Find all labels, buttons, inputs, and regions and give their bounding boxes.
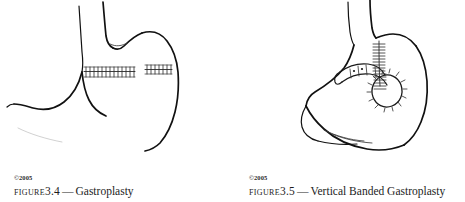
antrum-lower-border bbox=[306, 106, 404, 150]
duodenum bbox=[7, 104, 14, 107]
staple-line-lateral bbox=[145, 65, 172, 74]
duodenum-fold-1 bbox=[324, 130, 364, 141]
copyright-notice: ©2005 bbox=[232, 175, 465, 182]
illustration-gastroplasty bbox=[0, 0, 232, 152]
copyright-notice: ©2005 bbox=[0, 175, 232, 182]
esophagus-left-wall bbox=[348, 2, 354, 45]
figure-label: Figure bbox=[14, 185, 45, 197]
stoma-opening bbox=[367, 69, 407, 112]
staple-line-medial bbox=[84, 67, 135, 77]
esophagus-left-wall bbox=[79, 6, 83, 72]
caption-dash: — bbox=[60, 185, 76, 197]
duodenum-lower bbox=[318, 141, 357, 144]
lower-contour-hint bbox=[18, 128, 62, 142]
figure-label: Figure bbox=[249, 185, 280, 197]
caption-dash: — bbox=[295, 185, 311, 197]
cardiac-notch bbox=[113, 33, 142, 49]
figure-title: Vertical Banded Gastroplasty bbox=[310, 185, 445, 197]
caption-block-3-5: ©2005 Figure3.5—Vertical Banded Gastropl… bbox=[232, 175, 465, 198]
figure-number: 3.4 bbox=[45, 185, 60, 197]
figure-caption: Figure3.4—Gastroplasty bbox=[0, 185, 232, 198]
illustration-vertical-banded-gastroplasty bbox=[232, 0, 465, 152]
lesser-curvature bbox=[306, 45, 354, 106]
figure-panel-3-4: ©2005 Figure3.4—Gastroplasty bbox=[0, 0, 232, 202]
greater-curvature bbox=[404, 46, 427, 145]
antrum-lower-border bbox=[14, 72, 82, 109]
esophagus-right-wall bbox=[103, 2, 113, 48]
lesser-curvature bbox=[82, 72, 106, 116]
figure-title: Gastroplasty bbox=[75, 185, 133, 197]
greater-curvature bbox=[142, 32, 178, 151]
caption-block-3-4: ©2005 Figure3.4—Gastroplasty bbox=[0, 175, 232, 198]
figure-caption: Figure3.5—Vertical Banded Gastroplasty bbox=[232, 185, 465, 198]
esophagus-right-wall bbox=[370, 0, 376, 38]
figure-number: 3.5 bbox=[280, 185, 295, 197]
figure-panel-3-5: ©2005 Figure3.5—Vertical Banded Gastropl… bbox=[232, 0, 465, 202]
